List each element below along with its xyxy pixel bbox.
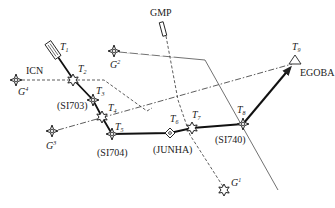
t6-label: T6 [170, 113, 179, 125]
junha-label: (JUNHA) [153, 144, 192, 156]
g2-coverage-line [119, 52, 278, 190]
t9-label: T9 [292, 41, 301, 53]
ground-station-g2-icon [108, 45, 120, 57]
icn-runway-icon [45, 41, 61, 60]
waypoint-t6-icon [165, 128, 175, 138]
t3-label: T3 [96, 85, 105, 97]
ground-station-g1-icon [219, 184, 229, 196]
egoba-label: EGOBA [300, 67, 335, 78]
g2-label: G2 [110, 59, 120, 70]
flight-route-diagram: ICN GMP EGOBA (SI703) (SI704) (JUNHA) (S… [0, 0, 335, 208]
icn-label: ICN [26, 65, 43, 76]
g4-label: G4 [18, 86, 28, 97]
si704-label: (SI704) [97, 147, 128, 159]
gmp-runway-icon [159, 22, 166, 37]
t8-label: T8 [237, 104, 246, 116]
g1-label: G1 [231, 177, 241, 188]
gmp-label: GMP [150, 7, 172, 18]
waypoint-t9-triangle-icon [289, 55, 301, 64]
ground-station-g4-icon [10, 74, 22, 86]
route-arrow [243, 68, 290, 124]
waypoint-t4-icon [97, 111, 107, 123]
g3-label: G3 [46, 140, 56, 151]
t2-label: T2 [78, 63, 87, 75]
si740-label: (SI740) [215, 134, 246, 146]
t5-label: T5 [115, 121, 124, 133]
t7-label: T7 [192, 109, 202, 121]
t4-label: T4 [108, 102, 117, 114]
t1-label: T1 [60, 41, 69, 53]
ground-station-g3-icon [46, 125, 58, 137]
si703-label: (SI703) [57, 100, 88, 112]
